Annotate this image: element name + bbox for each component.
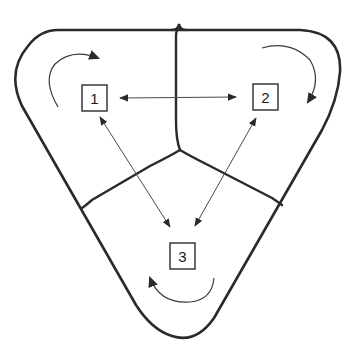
region-label-1: 1 (82, 85, 107, 111)
outer-boundary (15, 30, 340, 338)
divider-top (176, 28, 180, 150)
link-1-3 (100, 117, 170, 227)
divider-left (82, 150, 180, 208)
region-label-2: 2 (253, 84, 278, 110)
svg-text:3: 3 (178, 248, 186, 265)
divider-right (180, 150, 282, 205)
links (100, 97, 256, 227)
svg-text:2: 2 (261, 89, 269, 106)
link-2-3 (195, 118, 256, 226)
svg-text:1: 1 (90, 90, 98, 107)
cycle-diagram: 1 2 3 (0, 0, 357, 342)
region-label-3: 3 (170, 243, 195, 269)
region-dividers (82, 24, 282, 208)
cycle-arrow-3 (150, 278, 214, 302)
link-1-2 (120, 97, 236, 98)
